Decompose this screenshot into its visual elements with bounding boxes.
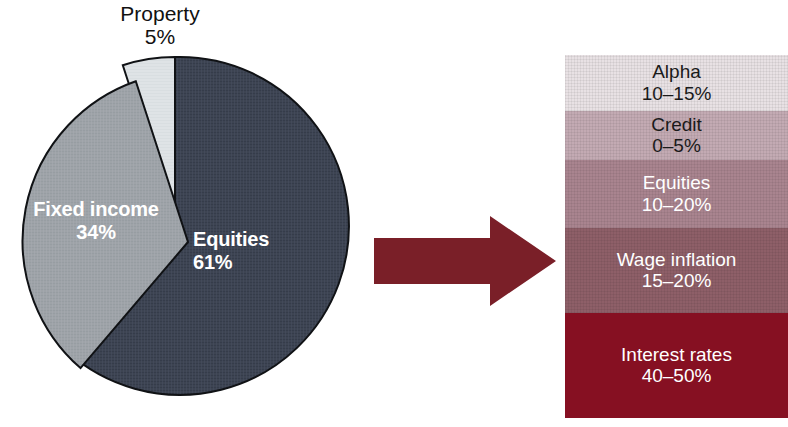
bar-band-alpha-label: Alpha [652,61,701,83]
pie-label-property-value: 5% [95,25,225,48]
pie-label-property: Property 5% [95,2,225,48]
bar-band-equities: Equities 10–20% [565,160,788,228]
bar-band-alpha-range: 10–15% [642,83,712,105]
pie-label-equities: Equities 61% [193,228,333,274]
bar-band-wage-inflation-label: Wage inflation [617,249,737,271]
stacked-bar-chart: Alpha 10–15% Credit 0–5% Equities 10–20%… [565,55,788,418]
right-arrow [372,214,558,308]
pie-label-property-name: Property [95,2,225,25]
bar-band-credit-label: Credit [651,114,702,136]
bar-band-equities-label: Equities [643,172,711,194]
figure-canvas: Equities 61% Fixed income 34% Property 5… [0,0,788,427]
bar-band-credit: Credit 0–5% [565,111,788,160]
pie-label-fixed-income-name: Fixed income [16,198,176,221]
bar-band-credit-range: 0–5% [652,135,701,157]
right-arrow-icon [372,214,558,308]
bar-band-interest-rates-label: Interest rates [621,344,732,366]
bar-band-interest-rates: Interest rates 40–50% [565,313,788,418]
pie-label-fixed-income-value: 34% [16,221,176,244]
bar-band-wage-inflation: Wage inflation 15–20% [565,228,788,313]
pie-label-equities-value: 61% [193,251,333,274]
bar-band-alpha: Alpha 10–15% [565,55,788,111]
pie-label-fixed-income: Fixed income 34% [16,198,176,244]
bar-band-interest-rates-range: 40–50% [642,365,712,387]
pie-chart: Equities 61% Fixed income 34% Property 5… [0,0,370,427]
bar-band-wage-inflation-range: 15–20% [642,270,712,292]
pie-label-equities-name: Equities [193,228,333,251]
bar-band-equities-range: 10–20% [642,194,712,216]
